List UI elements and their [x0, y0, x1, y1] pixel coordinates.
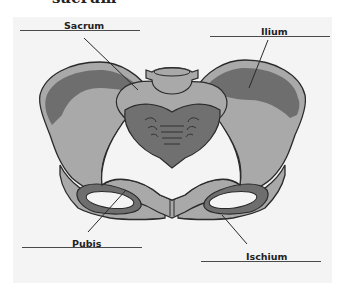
leader-lines — [0, 0, 345, 298]
